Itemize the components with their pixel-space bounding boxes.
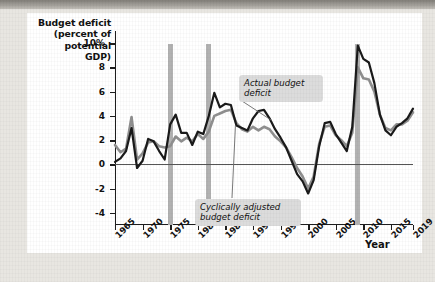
callout-leader-cyclical <box>232 126 235 198</box>
line-actual-deficit <box>115 46 413 194</box>
callout-cyclically-adjusted-budget-deficit: Cyclically adjusted budget deficit <box>195 199 301 226</box>
figure-card: Budget deficit (percent of potential GDP… <box>27 13 422 253</box>
callout-actual-budget-deficit: Actual budget deficit <box>239 75 323 102</box>
page-top-band <box>0 0 435 9</box>
callout-leader-actual <box>242 101 272 120</box>
x-axis-title: Year <box>365 239 390 250</box>
